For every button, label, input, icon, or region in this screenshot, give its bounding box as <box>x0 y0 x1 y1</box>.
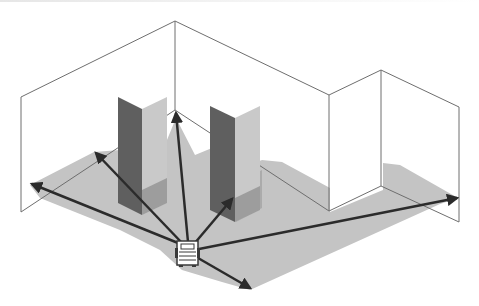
wall-right-alcove <box>329 70 381 186</box>
pillar-right-dark-face <box>210 106 235 222</box>
pillar-right <box>210 106 260 222</box>
diagram-canvas: Scanner emitting rays inside a room with… <box>0 0 479 306</box>
pillar-left <box>118 97 167 215</box>
scanner-device-icon <box>175 241 200 267</box>
room-diagram <box>0 0 479 306</box>
